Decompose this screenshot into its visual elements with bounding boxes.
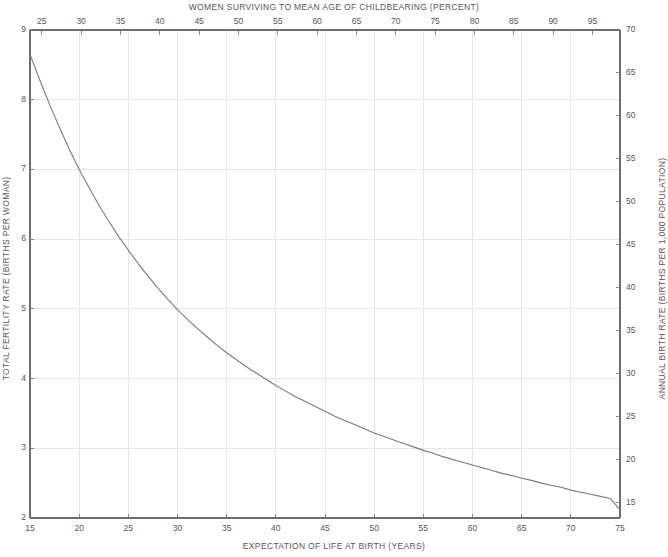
y-tick-6: 6 [8, 233, 26, 243]
right-tick-55: 55 [626, 153, 644, 163]
x-tick-25: 25 [113, 523, 143, 533]
x-tick-75: 75 [605, 523, 635, 533]
right-tick-40: 40 [626, 282, 644, 292]
right-tick-45: 45 [626, 239, 644, 249]
x-tick-35: 35 [212, 523, 242, 533]
y-tick-3: 3 [8, 442, 26, 452]
top-tick-70: 70 [381, 16, 411, 26]
y-tick-7: 7 [8, 163, 26, 173]
top-tick-90: 90 [538, 16, 568, 26]
x-tick-70: 70 [556, 523, 586, 533]
right-tick-60: 60 [626, 110, 644, 120]
right-axis-title: ANNUAL BIRTH RATE (BIRTHS PER 1,000 POPU… [656, 0, 668, 557]
right-tick-30: 30 [626, 368, 644, 378]
top-tick-55: 55 [263, 16, 293, 26]
y-tick-2: 2 [8, 512, 26, 522]
top-tick-40: 40 [145, 16, 175, 26]
x-tick-50: 50 [359, 523, 389, 533]
top-tick-60: 60 [302, 16, 332, 26]
x-tick-30: 30 [163, 523, 193, 533]
y-tick-4: 4 [8, 373, 26, 383]
right-tick-35: 35 [626, 325, 644, 335]
top-tick-35: 35 [105, 16, 135, 26]
top-axis-title: WOMEN SURVIVING TO MEAN AGE OF CHILDBEAR… [0, 2, 668, 12]
top-tick-65: 65 [341, 16, 371, 26]
x-tick-65: 65 [507, 523, 537, 533]
grid-lines [30, 30, 620, 518]
right-tick-65: 65 [626, 67, 644, 77]
y-axis-title: TOTAL FERTILITY RATE (BIRTHS PER WOMAN) [0, 0, 12, 557]
top-tick-25: 25 [27, 16, 57, 26]
x-tick-45: 45 [310, 523, 340, 533]
x-tick-60: 60 [458, 523, 488, 533]
chart-container: WOMEN SURVIVING TO MEAN AGE OF CHILDBEAR… [0, 0, 668, 557]
x-tick-40: 40 [261, 523, 291, 533]
top-tick-95: 95 [577, 16, 607, 26]
top-tick-75: 75 [420, 16, 450, 26]
top-tick-30: 30 [66, 16, 96, 26]
top-tick-50: 50 [223, 16, 253, 26]
right-tick-50: 50 [626, 196, 644, 206]
top-tick-45: 45 [184, 16, 214, 26]
x-tick-55: 55 [408, 523, 438, 533]
x-axis-title: EXPECTATION OF LIFE AT BIRTH (YEARS) [0, 541, 668, 551]
top-tick-85: 85 [499, 16, 529, 26]
x-tick-15: 15 [15, 523, 45, 533]
top-tick-80: 80 [459, 16, 489, 26]
right-tick-25: 25 [626, 411, 644, 421]
y-tick-9: 9 [8, 24, 26, 34]
right-tick-15: 15 [626, 497, 644, 507]
y-tick-5: 5 [8, 303, 26, 313]
right-tick-70: 70 [626, 24, 644, 34]
plot-area [0, 0, 668, 557]
right-tick-20: 20 [626, 454, 644, 464]
x-tick-20: 20 [64, 523, 94, 533]
y-tick-8: 8 [8, 94, 26, 104]
